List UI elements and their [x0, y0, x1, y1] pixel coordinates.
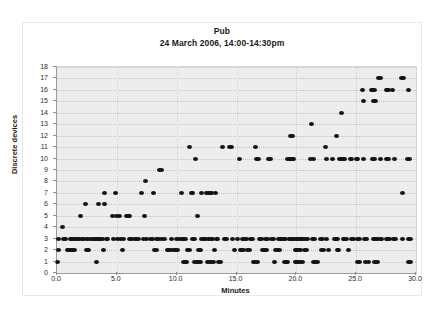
- data-point: [154, 248, 159, 252]
- data-point: [232, 248, 237, 252]
- y-axis-tick-mark: [53, 89, 56, 90]
- data-point: [127, 214, 132, 218]
- x-axis-tick-label: 20.0: [289, 275, 303, 282]
- data-point: [360, 88, 365, 92]
- data-point: [113, 191, 118, 195]
- data-point: [142, 214, 147, 218]
- x-axis-tick-mark: [295, 272, 296, 275]
- data-point: [105, 237, 110, 241]
- x-axis-tick-label: 15.0: [229, 275, 243, 282]
- data-point: [215, 237, 220, 241]
- data-point: [330, 157, 335, 161]
- data-point: [256, 157, 261, 161]
- x-axis-tick-mark: [56, 272, 57, 275]
- data-point: [342, 157, 347, 161]
- data-point: [102, 202, 107, 206]
- data-point: [378, 157, 383, 161]
- y-axis-tick-mark: [53, 203, 56, 204]
- data-point: [408, 260, 413, 264]
- x-axis-tick-mark: [355, 272, 356, 275]
- data-point: [339, 111, 344, 115]
- data-point: [375, 260, 380, 264]
- data-point: [312, 237, 317, 241]
- figure-container: Pub 24 March 2006, 14:00-14:30pm 0123456…: [0, 0, 445, 321]
- scatter-points: [57, 67, 416, 273]
- data-point: [300, 260, 305, 264]
- data-point: [101, 248, 106, 252]
- data-point: [324, 237, 329, 241]
- plot-area: [56, 66, 417, 274]
- gridline-vertical: [416, 67, 417, 273]
- y-axis-tick-mark: [53, 215, 56, 216]
- x-axis-tick-mark: [415, 272, 416, 275]
- y-axis-tick-mark: [53, 169, 56, 170]
- x-axis-tick-label: 5.0: [111, 275, 121, 282]
- data-point: [162, 237, 167, 241]
- data-point: [220, 145, 225, 149]
- data-point: [321, 248, 326, 252]
- data-point: [357, 260, 362, 264]
- data-point: [291, 157, 296, 161]
- y-axis-title: Discrete devices: [10, 85, 19, 205]
- data-point: [190, 191, 195, 195]
- data-point: [250, 237, 255, 241]
- data-point: [335, 237, 340, 241]
- y-axis-tick-mark: [53, 135, 56, 136]
- data-point: [198, 260, 203, 264]
- data-point: [94, 260, 99, 264]
- x-axis-tick-label: 10.0: [169, 275, 183, 282]
- x-axis-tick-mark: [176, 272, 177, 275]
- data-point: [400, 191, 405, 195]
- data-point: [83, 202, 88, 206]
- chart-title: Pub: [22, 26, 422, 37]
- data-point: [211, 260, 216, 264]
- data-point: [151, 191, 156, 195]
- data-point: [218, 260, 223, 264]
- data-point: [86, 248, 91, 252]
- data-point: [324, 157, 329, 161]
- data-point: [253, 145, 258, 149]
- y-axis-tick-mark: [53, 261, 56, 262]
- data-point: [175, 248, 180, 252]
- data-point: [78, 214, 83, 218]
- data-point: [390, 88, 395, 92]
- data-point: [193, 157, 198, 161]
- data-point: [120, 248, 125, 252]
- data-point: [143, 179, 148, 183]
- data-point: [406, 88, 411, 92]
- data-point: [361, 157, 366, 161]
- data-point: [237, 157, 242, 161]
- y-axis-tick-mark: [53, 158, 56, 159]
- data-point: [255, 260, 260, 264]
- y-axis-tick-mark: [53, 180, 56, 181]
- data-point: [372, 157, 377, 161]
- data-point: [392, 157, 397, 161]
- data-point: [199, 191, 204, 195]
- y-axis-tick-mark: [53, 249, 56, 250]
- data-point: [355, 157, 360, 161]
- x-axis-tick-mark: [236, 272, 237, 275]
- data-point: [285, 260, 290, 264]
- data-point: [311, 157, 316, 161]
- chart-title-block: Pub 24 March 2006, 14:00-14:30pm: [22, 26, 422, 48]
- data-point: [378, 76, 383, 80]
- x-axis-tick-label: 25.0: [348, 275, 362, 282]
- data-point: [96, 202, 101, 206]
- x-axis-tick-label: 30.0: [408, 275, 422, 282]
- y-axis-tick-mark: [53, 192, 56, 193]
- data-point: [315, 260, 320, 264]
- data-point: [272, 260, 277, 264]
- data-point: [117, 214, 122, 218]
- data-point: [179, 191, 184, 195]
- data-point: [323, 145, 328, 149]
- data-point: [213, 191, 218, 195]
- data-point: [187, 248, 192, 252]
- data-point: [268, 157, 273, 161]
- data-point: [336, 248, 341, 252]
- data-point: [401, 76, 406, 80]
- data-point: [386, 157, 391, 161]
- data-point: [139, 191, 144, 195]
- data-point: [192, 237, 197, 241]
- data-point: [366, 260, 371, 264]
- data-point: [121, 237, 126, 241]
